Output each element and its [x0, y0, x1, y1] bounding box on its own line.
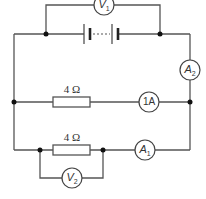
- junction-dot: [188, 100, 193, 105]
- junction-dot: [38, 148, 43, 153]
- circuit-wires: [0, 0, 206, 199]
- resistor-lower-label: 4 Ω: [52, 132, 92, 142]
- ammeter-upper-label: 1A: [139, 97, 159, 107]
- ammeter-a2-label: A2: [180, 64, 200, 79]
- resistor-lower-icon: [53, 145, 90, 155]
- junction-dot: [158, 32, 163, 37]
- battery-icon: [84, 24, 118, 44]
- ammeter-a1-label: A1: [135, 144, 155, 159]
- resistor-upper-label: 4 Ω: [52, 84, 92, 94]
- junction-dot: [12, 100, 17, 105]
- resistor-upper-icon: [53, 97, 90, 107]
- voltmeter-v1-label: V1: [94, 0, 114, 14]
- junction-dot: [101, 148, 106, 153]
- junction-dot: [44, 32, 49, 37]
- voltmeter-v2-label: V2: [62, 172, 82, 187]
- circuit-diagram: V1 A2 1A A1 V2 4 Ω 4 Ω: [0, 0, 206, 199]
